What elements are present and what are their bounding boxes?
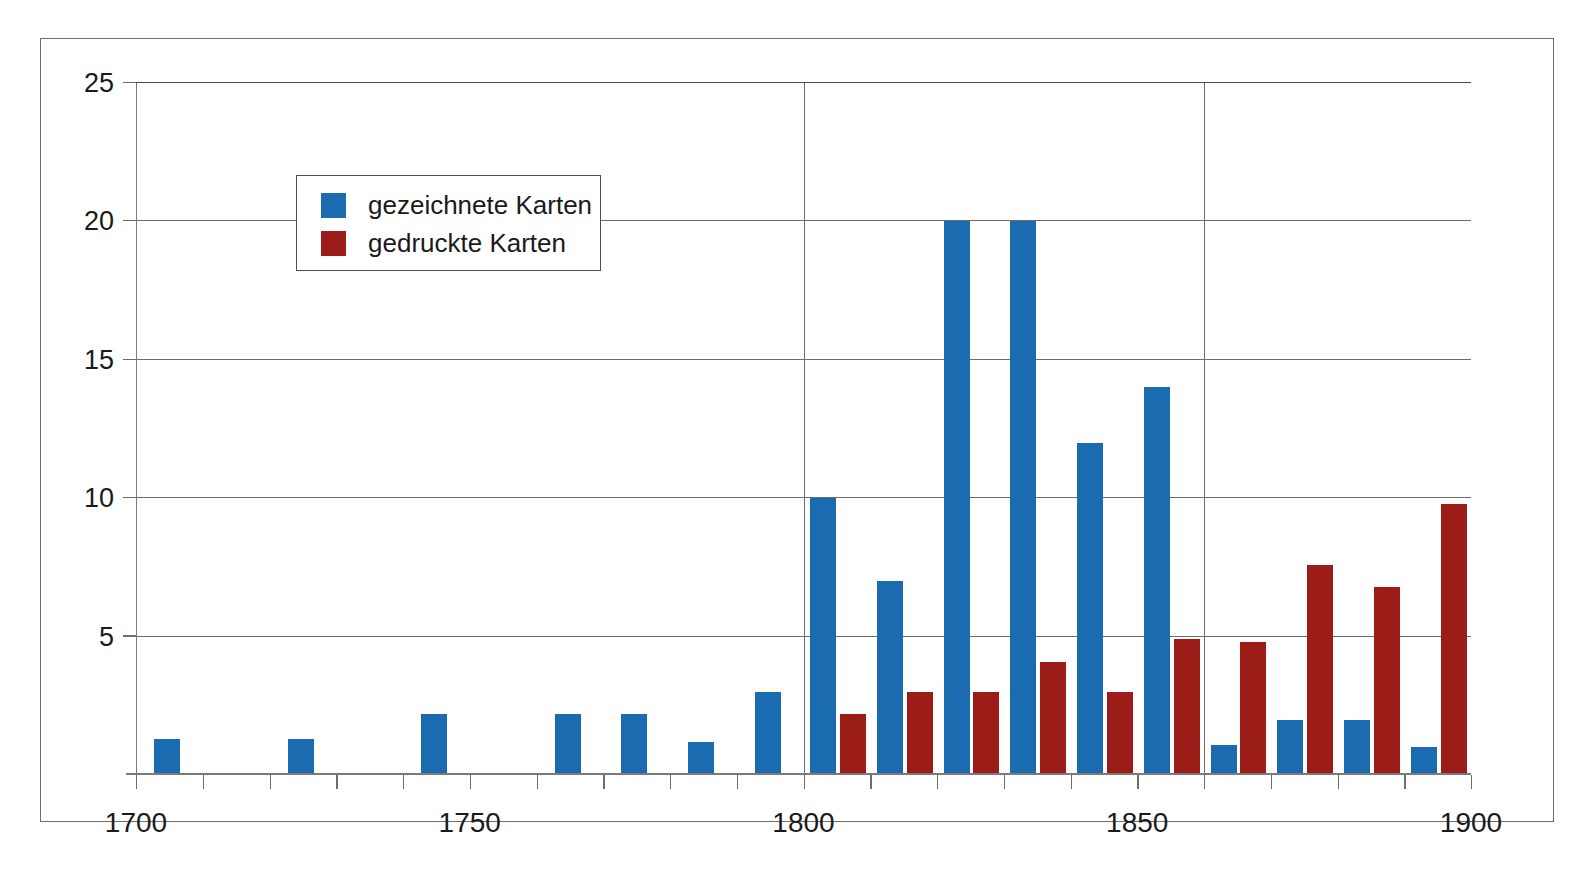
x-axis-tick-mark-1770 [603,775,604,789]
y-axis-tick-label-15: 15 [56,347,114,374]
x-axis-tick-mark-1710 [203,775,204,789]
bar-gezeichnete-1870 [1277,720,1303,775]
bar-gezeichnete-1810 [877,581,903,775]
chart-figure-frame: 510152025 17001750180018501900 gezeichne… [40,38,1554,822]
x-axis-tick-label-1750: 1750 [410,809,530,837]
bar-gedruckte-1860 [1240,642,1266,775]
legend-item-gezeichnete: gezeichnete Karten [297,186,600,224]
x-axis-tick-mark-1880 [1338,775,1339,789]
bar-gezeichnete-1880 [1344,720,1370,775]
bar-gedruckte-1840 [1107,692,1133,775]
legend-item-gedruckte: gedruckte Karten [297,224,600,262]
page-top-text-sliver [0,0,1594,14]
y-axis-tick-mark-20 [123,220,136,221]
bar-gedruckte-1820 [973,692,999,775]
x-axis-tick-label-1700: 1700 [76,809,196,837]
x-axis-tick-mark-1840 [1071,775,1072,789]
y-axis-tick-mark-5 [123,635,136,636]
x-axis-tick-mark-1760 [537,775,538,789]
y-axis-tick-mark-25 [123,82,136,83]
chart-legend: gezeichnete Karten gedruckte Karten [296,175,601,271]
legend-swatch-red-icon [321,231,346,256]
x-axis-tick-label-1850: 1850 [1077,809,1197,837]
x-axis-line [126,773,1471,775]
y-axis-tick-mark-15 [123,359,136,360]
y-axis-tick-mark-10 [123,497,136,498]
x-axis-tick-mark-1850 [1137,775,1138,789]
x-axis-tick-mark-1890 [1404,775,1405,789]
bar-gezeichnete-1790 [755,692,781,775]
bar-gedruckte-1880 [1374,587,1400,775]
x-axis-tick-mark-1810 [870,775,871,789]
bar-gezeichnete-1820 [944,221,970,775]
x-axis-tick-mark-1720 [270,775,271,789]
x-axis-tick-mark-1900 [1471,775,1472,789]
gridline-x-1800 [804,83,805,775]
x-axis-tick-mark-1780 [670,775,671,789]
x-axis-tick-mark-1730 [336,775,337,789]
x-axis-tick-mark-1820 [937,775,938,789]
y-axis-tick-label-5: 5 [56,624,114,651]
bar-gezeichnete-1760 [555,714,581,775]
bar-gezeichnete-1860 [1211,745,1237,775]
legend-label-gedruckte: gedruckte Karten [368,230,566,256]
x-axis-tick-mark-1790 [737,775,738,789]
bar-gedruckte-1850 [1174,639,1200,775]
legend-swatch-blue-icon [321,193,346,218]
x-axis-tick-mark-1830 [1004,775,1005,789]
bar-gezeichnete-1720 [288,739,314,775]
legend-label-gezeichnete: gezeichnete Karten [368,192,592,218]
bar-gedruckte-1870 [1307,565,1333,775]
bar-gezeichnete-1800 [810,498,836,775]
bar-gezeichnete-1740 [421,714,447,775]
bar-gezeichnete-1780 [688,742,714,775]
plot-area: 510152025 17001750180018501900 gezeichne… [136,83,1471,775]
x-axis-tick-mark-1700 [136,775,137,789]
x-axis-tick-mark-1800 [804,775,805,789]
y-axis-line [136,83,137,775]
y-axis-tick-label-25: 25 [56,70,114,97]
x-axis-tick-mark-1750 [470,775,471,789]
bar-gezeichnete-1840 [1077,443,1103,775]
x-axis-tick-mark-1860 [1204,775,1205,789]
x-axis-tick-label-1900: 1900 [1411,809,1531,837]
bar-gezeichnete-1700 [154,739,180,775]
bar-gedruckte-1800 [840,714,866,775]
bar-gezeichnete-1770 [621,714,647,775]
bar-gedruckte-1890 [1441,504,1467,775]
bar-gedruckte-1830 [1040,662,1066,775]
y-axis-tick-label-20: 20 [56,208,114,235]
bar-gezeichnete-1850 [1144,387,1170,775]
bar-gezeichnete-1830 [1010,221,1036,775]
bar-gezeichnete-1890 [1411,747,1437,775]
x-axis-tick-mark-1740 [403,775,404,789]
gridline-x-1860 [1204,83,1205,775]
bar-gedruckte-1810 [907,692,933,775]
y-axis-tick-label-10: 10 [56,485,114,512]
x-axis-tick-mark-1870 [1271,775,1272,789]
x-axis-tick-label-1800: 1800 [744,809,864,837]
